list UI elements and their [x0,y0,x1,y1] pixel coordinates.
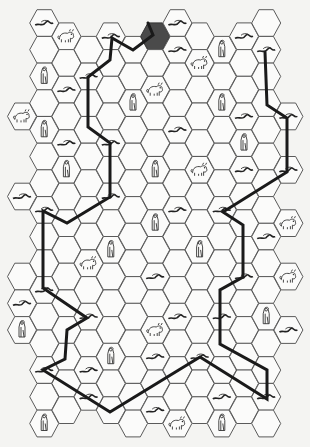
hex-map-board [0,0,310,447]
hex-grid [8,10,303,437]
